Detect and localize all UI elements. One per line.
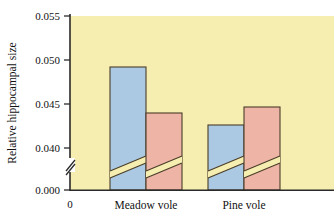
bar-meadow-blue[interactable] — [110, 67, 146, 190]
y-tick-label-0045: 0.045 — [35, 98, 60, 110]
y-axis-title: Relative hippocampal size — [6, 42, 19, 163]
y-tick-label-0050: 0.050 — [35, 54, 60, 66]
bar-chart-svg: 0.055 0.050 0.045 0.040 0.000 0 Meadow v… — [0, 0, 334, 222]
bar-rect — [208, 125, 244, 190]
x-axis-origin-label: 0 — [67, 198, 73, 210]
bar-rect — [146, 113, 182, 190]
x-axis-category-pine-vole: Pine vole — [222, 199, 265, 211]
chart-container: 0.055 0.050 0.045 0.040 0.000 0 Meadow v… — [0, 0, 334, 222]
bar-rect — [244, 107, 280, 190]
y-tick-label-0000: 0.000 — [35, 184, 60, 196]
x-axis-category-meadow-vole: Meadow vole — [115, 199, 178, 211]
bar-pine-pink[interactable] — [244, 107, 280, 190]
y-tick-label-0055: 0.055 — [35, 10, 60, 22]
bar-pine-blue[interactable] — [208, 125, 244, 190]
y-tick-label-0040: 0.040 — [35, 142, 60, 154]
bar-meadow-pink[interactable] — [146, 113, 182, 190]
